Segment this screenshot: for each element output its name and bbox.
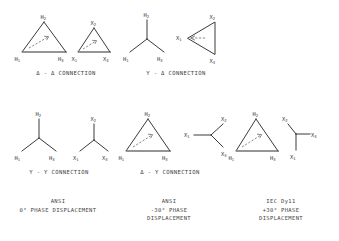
- terminal-label: H3: [157, 56, 163, 63]
- terminal-label: X2: [91, 116, 97, 123]
- terminal-label: H1: [123, 56, 129, 63]
- figure-delta-wye: H2 H1 H3 X1 X2 X3: [119, 111, 228, 163]
- terminal-label: X2: [210, 14, 216, 21]
- terminal-label: H3: [270, 155, 276, 162]
- terminal-label: H2: [36, 111, 42, 118]
- terminal-label: H2: [41, 14, 47, 21]
- terminal-label: X1: [184, 132, 190, 139]
- caption-line: ANSI: [110, 197, 228, 206]
- terminal-label: X2: [221, 116, 227, 123]
- terminal-label: X3: [311, 132, 317, 139]
- caption-line: IEC Dy11: [224, 197, 338, 206]
- terminal-label: X3: [210, 58, 216, 65]
- terminal-label: X1: [176, 35, 182, 42]
- terminal-label: X1: [290, 154, 296, 161]
- terminal-label: H1: [119, 155, 125, 162]
- caption-line: 0° PHASE DISPLACEMENT: [0, 206, 118, 215]
- wye-delta-primary-winding: [130, 20, 164, 52]
- terminal-label: X3: [221, 151, 227, 158]
- caption-line: DISPLACEMENT: [224, 214, 338, 223]
- terminal-label: H3: [49, 155, 55, 162]
- terminal-label: X2: [282, 116, 288, 123]
- connection-label-wye-delta: Y - Δ CONNECTION: [110, 70, 242, 77]
- caption-ansi-minus30: ANSI -30° PHASE DISPLACEMENT: [110, 197, 228, 223]
- delta-delta-secondary-winding: [78, 28, 110, 52]
- caption-line: DISPLACEMENT: [110, 214, 228, 223]
- terminal-label: H2: [253, 111, 259, 118]
- delta-wye-iec-secondary-winding: [288, 124, 310, 150]
- delta-wye-iec-primary-winding: [236, 119, 278, 151]
- caption-ansi-0: ANSI 0° PHASE DISPLACEMENT: [0, 197, 118, 214]
- wye-delta-secondary-winding: [188, 22, 215, 54]
- terminal-label: H2: [145, 111, 151, 118]
- caption-iec-dy11: IEC Dy11 +30° PHASE DISPLACEMENT: [224, 197, 338, 223]
- terminal-label: H3: [162, 155, 168, 162]
- terminal-label: H2: [144, 12, 150, 19]
- terminal-label: H1: [15, 155, 21, 162]
- wye-wye-secondary-winding: [80, 124, 108, 151]
- terminal-label: X3: [103, 56, 109, 63]
- terminal-label: X3: [102, 155, 108, 162]
- connection-label-delta-wye: Δ - Y CONNECTION: [110, 169, 230, 176]
- figure-wye-delta: H2 H1 H3 X2 X1 X3: [123, 12, 216, 66]
- caption-line: ANSI: [0, 197, 118, 206]
- terminal-label: H1: [229, 155, 235, 162]
- terminal-label: H3: [58, 56, 64, 63]
- caption-line: +30° PHASE: [224, 206, 338, 215]
- delta-wye-primary-winding: [126, 119, 170, 151]
- delta-delta-primary-winding: [22, 22, 66, 52]
- diagram-sheet: H2 H1 H3 X2 X1 X3 H2 H1: [0, 0, 339, 241]
- caption-line: -30° PHASE: [110, 206, 228, 215]
- connection-label-wye-wye: Y - Y CONNECTION: [0, 169, 118, 176]
- terminal-label: X1: [73, 155, 79, 162]
- terminal-label: X2: [91, 20, 97, 27]
- figure-wye-wye: H2 H1 H3 X2 X1 X3: [15, 111, 109, 163]
- delta-wye-secondary-winding: [194, 124, 223, 147]
- figure-delta-wye-iec: H2 H1 H3 X2 X3 X1: [229, 111, 318, 163]
- wye-wye-primary-winding: [22, 119, 56, 151]
- terminal-label: X1: [72, 56, 78, 63]
- figure-delta-delta: H2 H1 H3 X2 X1 X3: [15, 14, 111, 64]
- terminal-label: H1: [15, 56, 21, 63]
